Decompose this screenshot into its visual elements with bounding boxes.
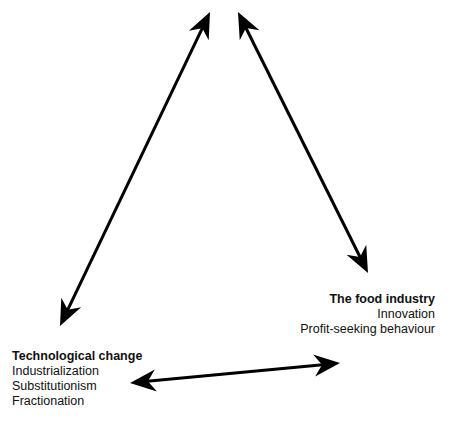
top-to-food-industry-arrow <box>243 23 362 263</box>
technological-change-node: Technological change Industrialization S… <box>12 349 142 409</box>
top-to-technological-change-arrow <box>65 23 205 315</box>
technological-change-item: Substitutionism <box>12 379 142 394</box>
technological-change-item: Fractionation <box>12 394 142 409</box>
food-industry-item: Profit-seeking behaviour <box>300 322 435 337</box>
food-industry-title: The food industry <box>300 292 435 307</box>
food-industry-node: The food industry Innovation Profit-seek… <box>300 292 435 337</box>
food-industry-item: Innovation <box>300 307 435 322</box>
technological-change-title: Technological change <box>12 349 142 364</box>
technological-change-to-food-industry-arrow <box>142 364 328 382</box>
technological-change-item: Industrialization <box>12 364 142 379</box>
